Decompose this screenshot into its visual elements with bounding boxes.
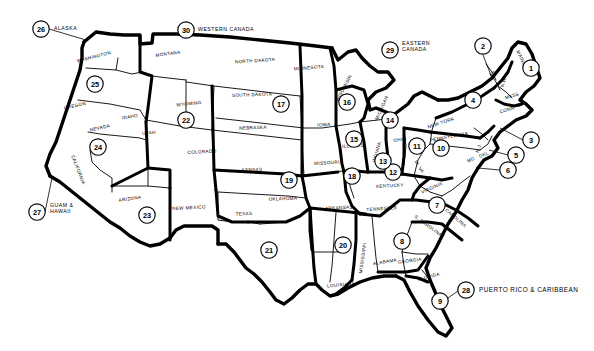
region-badge-29[interactable]: 29 — [382, 42, 398, 58]
region-badge-19[interactable]: 19 — [281, 172, 297, 188]
legend-entry-27: GUAM &HAWAII — [50, 202, 74, 214]
badge-number: 26 — [37, 25, 45, 34]
badge-number: 17 — [277, 100, 285, 109]
legend-label: WESTERN CANADA — [198, 26, 254, 32]
region-badge-16[interactable]: 16 — [339, 94, 355, 110]
region-badge-28[interactable]: 28 — [458, 282, 474, 298]
legend-label: GUAM & — [50, 202, 74, 208]
region-badge-3[interactable]: 3 — [523, 132, 539, 148]
badge-number: 16 — [343, 98, 351, 107]
region-badge-10[interactable]: 10 — [433, 140, 449, 156]
leader-line-6 — [478, 168, 500, 170]
badge-number: 8 — [400, 237, 404, 246]
badge-number: 7 — [435, 201, 439, 210]
region-badge-9[interactable]: 9 — [432, 293, 448, 309]
region-badge-21[interactable]: 21 — [261, 242, 277, 258]
badge-number: 15 — [350, 135, 358, 144]
badge-number: 14 — [386, 116, 395, 125]
region-badge-27[interactable]: 27 — [29, 204, 45, 220]
badge-number: 23 — [143, 211, 151, 220]
region-badge-26[interactable]: 26 — [33, 21, 49, 37]
badge-number: 27 — [33, 208, 41, 217]
legend-label: EASTERN — [402, 40, 430, 46]
legend-label: CANADA — [402, 46, 427, 52]
region-badge-11[interactable]: 11 — [409, 138, 425, 154]
badge-number: 30 — [182, 26, 190, 35]
badge-number: 21 — [265, 246, 273, 255]
region-badge-30[interactable]: 30 — [178, 22, 194, 38]
badge-number: 9 — [438, 297, 442, 306]
legend-entry-30: WESTERN CANADA — [198, 26, 254, 32]
legend-label: ALASKA — [54, 25, 77, 31]
territory-map: WASHINGTONOREGONCALIFORNIANEVADAIDAHOMON… — [0, 0, 594, 351]
badge-number: 24 — [94, 143, 103, 152]
legend-entry-28: PUERTO RICO & CARIBBEAN — [479, 286, 578, 293]
badge-number: 18 — [348, 172, 356, 181]
badge-number: 29 — [386, 46, 394, 55]
badge-number: 1 — [529, 64, 533, 73]
state-label: CONN — [499, 105, 515, 114]
region-badge-1[interactable]: 1 — [523, 60, 539, 76]
state-label: TEXAS — [236, 211, 253, 217]
region-badge-20[interactable]: 20 — [335, 237, 351, 253]
legend-label: HAWAII — [50, 208, 71, 214]
badge-number: 19 — [285, 176, 293, 185]
badge-number: 3 — [529, 136, 533, 145]
badge-number: 13 — [379, 157, 387, 166]
region-badge-18[interactable]: 18 — [344, 168, 360, 184]
state-label: KANSAS — [242, 167, 263, 172]
region-badge-23[interactable]: 23 — [139, 207, 155, 223]
region-badge-15[interactable]: 15 — [346, 131, 362, 147]
region-badge-13[interactable]: 13 — [375, 153, 391, 169]
region-badge-7[interactable]: 7 — [429, 197, 445, 213]
region-badge-8[interactable]: 8 — [394, 233, 410, 249]
state-label: N.H. — [500, 76, 508, 88]
badge-number: 11 — [413, 142, 421, 151]
region-badge-6[interactable]: 6 — [500, 162, 516, 178]
state-label: OKLAHOMA — [268, 196, 298, 202]
region-badge-25[interactable]: 25 — [87, 76, 103, 92]
state-label: IOWA — [317, 122, 331, 127]
badge-number: 2 — [481, 42, 485, 51]
badge-number: 20 — [339, 241, 347, 250]
region-badge-22[interactable]: 22 — [178, 112, 194, 128]
badge-number: 10 — [437, 144, 445, 153]
legend-label: PUERTO RICO & CARIBBEAN — [479, 286, 578, 293]
region-badge-5[interactable]: 5 — [508, 147, 524, 163]
region-badge-24[interactable]: 24 — [90, 139, 106, 155]
badge-number: 28 — [462, 286, 470, 295]
badge-number: 25 — [91, 80, 99, 89]
badge-number: 22 — [182, 116, 190, 125]
region-badge-4[interactable]: 4 — [465, 92, 481, 108]
badge-number: 5 — [514, 151, 518, 160]
map-canvas: WASHINGTONOREGONCALIFORNIANEVADAIDAHOMON… — [0, 0, 594, 351]
badge-number: 6 — [506, 166, 510, 175]
badge-number: 12 — [389, 168, 397, 177]
region-badge-17[interactable]: 17 — [273, 96, 289, 112]
state-label: NEBRASKA — [239, 125, 268, 131]
legend-entry-26: ALASKA — [54, 25, 77, 31]
region-badge-14[interactable]: 14 — [382, 112, 398, 128]
region-badge-2[interactable]: 2 — [475, 38, 491, 54]
leader-line-3 — [500, 128, 523, 140]
legend-entry-29: EASTERNCANADA — [402, 40, 430, 52]
